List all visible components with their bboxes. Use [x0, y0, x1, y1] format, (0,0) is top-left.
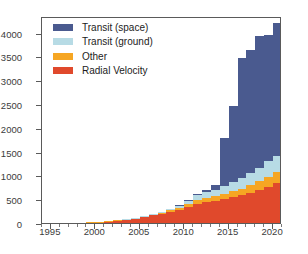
x-tick-minor	[245, 224, 246, 227]
bar-segment-other	[255, 181, 264, 190]
x-tick-label: 2005	[128, 226, 149, 237]
bar-segment-transit-ground	[166, 209, 175, 211]
x-tick-minor	[121, 224, 122, 227]
bar-segment-transit-ground	[175, 205, 184, 208]
legend-swatch-icon	[52, 37, 74, 46]
x-tick-label: 1995	[39, 226, 60, 237]
bar-segment-transit-ground	[229, 182, 238, 191]
x-tick-minor	[68, 224, 69, 227]
x-tick-label: 2000	[84, 226, 105, 237]
bar-segment-radial-velocity	[184, 207, 193, 223]
bar-segment-other	[184, 204, 193, 207]
bar-segment-transit-space	[202, 190, 211, 192]
bar-segment-transit-space	[246, 50, 255, 173]
bar-segment-transit-space	[211, 185, 220, 189]
bar-segment-transit-space	[229, 106, 238, 182]
bar-2006	[149, 214, 158, 223]
legend-item: Other	[52, 49, 153, 64]
bar-segment-transit-space	[255, 36, 264, 168]
bar-2016	[238, 58, 247, 223]
y-tick-label: 1000	[1, 171, 22, 182]
bar-2005	[140, 216, 149, 223]
bar-segment-radial-velocity	[166, 212, 175, 223]
bar-segment-other	[211, 196, 220, 201]
bar-segment-radial-velocity	[211, 201, 220, 223]
bar-segment-radial-velocity	[220, 199, 229, 223]
bar-segment-radial-velocity	[95, 222, 104, 223]
x-tick-label: 2015	[217, 226, 238, 237]
x-tick-minor	[201, 224, 202, 227]
x-tick-minor	[157, 224, 158, 227]
bar-segment-radial-velocity	[229, 197, 238, 223]
bar-segment-transit-ground	[220, 186, 229, 194]
bar-segment-transit-ground	[158, 212, 167, 213]
bar-segment-radial-velocity	[113, 220, 122, 223]
bar-segment-transit-ground	[238, 178, 247, 188]
y-tick-label: 3000	[1, 76, 22, 87]
x-tick-minor	[165, 224, 166, 227]
x-tick-label: 2010	[173, 226, 194, 237]
bar-segment-transit-ground	[184, 200, 193, 204]
bar-segment-radial-velocity	[149, 215, 158, 223]
legend-swatch-icon	[52, 52, 74, 61]
legend-swatch-icon	[52, 23, 74, 32]
bar-segment-transit-ground	[202, 192, 211, 198]
bar-segment-radial-velocity	[255, 190, 264, 223]
bar-segment-radial-velocity	[140, 217, 149, 223]
chart-figure: 05001000150020002500300035004000 1995200…	[0, 0, 308, 254]
bar-segment-radial-velocity	[193, 204, 202, 223]
bar-2018	[255, 36, 264, 223]
bar-segment-transit-space	[220, 138, 229, 186]
bar-segment-radial-velocity	[131, 219, 140, 223]
bar-segment-radial-velocity	[175, 210, 184, 223]
legend-label: Radial Velocity	[82, 65, 148, 76]
x-tick-label: 2020	[262, 226, 283, 237]
x-tick-minor	[112, 224, 113, 227]
bar-segment-other	[238, 189, 247, 196]
bar-2007	[158, 212, 167, 223]
bar-segment-transit-space	[238, 58, 247, 178]
bar-2017	[246, 50, 255, 223]
x-tick-minor	[210, 224, 211, 227]
legend-item: Transit (space)	[52, 20, 153, 35]
x-tick-minor	[77, 224, 78, 227]
y-tick-label: 3500	[1, 52, 22, 63]
bar-segment-transit-space	[184, 200, 193, 201]
y-tick-label: 500	[6, 195, 22, 206]
bar-2014	[220, 138, 229, 223]
bar-segment-transit-ground	[273, 156, 280, 173]
bar-2003	[122, 219, 131, 223]
bar-segment-transit-space	[193, 194, 202, 195]
y-tick-label: 1500	[1, 147, 22, 158]
bar-segment-transit-space	[273, 23, 280, 156]
bar-segment-radial-velocity	[246, 193, 255, 223]
bar-segment-other	[158, 213, 167, 215]
legend-label: Other	[82, 51, 107, 62]
bar-segment-other	[246, 185, 255, 193]
bar-segment-transit-space	[264, 35, 273, 161]
legend-item: Transit (ground)	[52, 35, 153, 50]
bar-segment-radial-velocity	[122, 220, 131, 223]
bar-2011	[193, 194, 202, 223]
bar-segment-transit-ground	[149, 214, 158, 215]
bar-segment-other	[149, 214, 158, 215]
bar-segment-radial-velocity	[86, 222, 95, 223]
legend-label: Transit (ground)	[82, 36, 153, 47]
bar-segment-other	[175, 208, 184, 210]
bar-2019	[264, 35, 273, 223]
bar-segment-other	[264, 177, 273, 187]
y-tick-label: 2500	[1, 100, 22, 111]
bar-segment-other	[131, 218, 140, 219]
y-tick-label: 0	[17, 219, 22, 230]
bar-segment-other	[140, 216, 149, 217]
bar-2009	[175, 205, 184, 223]
bar-2000	[95, 222, 104, 223]
bar-segment-transit-ground	[255, 168, 264, 181]
bar-segment-other	[193, 200, 202, 204]
legend-swatch-icon	[52, 66, 74, 75]
bar-segment-radial-velocity	[158, 214, 167, 223]
bar-2015	[229, 106, 238, 223]
bar-segment-radial-velocity	[104, 221, 113, 223]
bar-segment-radial-velocity	[202, 202, 211, 223]
bar-segment-other	[202, 198, 211, 202]
